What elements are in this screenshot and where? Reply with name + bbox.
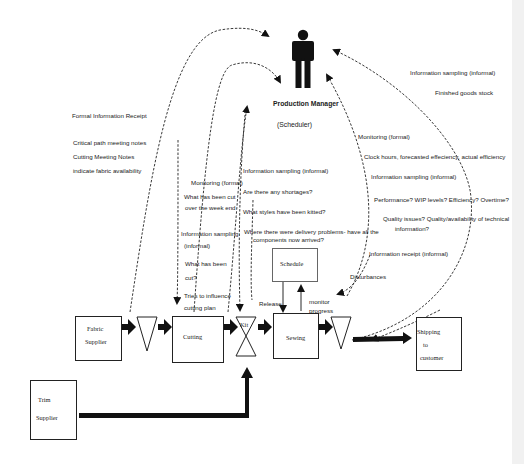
finished-goods-label: Finished goods stock <box>435 90 493 96</box>
manager-subtitle: (Scheduler) <box>277 122 312 129</box>
fabric-label-1: Fabric <box>87 326 103 332</box>
kit-sampling: Information sampling (informal) <box>243 168 328 174</box>
left-note-3: indicate fabric availability <box>73 168 141 174</box>
disturbances-label: Disturbances <box>350 274 386 280</box>
schedule-box: Schedule <box>272 248 318 282</box>
manager-title: Production Manager <box>273 101 339 108</box>
sewing-monitoring: Monitoring (formal) <box>358 134 410 140</box>
cutting-monitoring: Monitoring (formal) <box>191 180 243 186</box>
sewing-clock: Clock hours, forecasted effeciency, actu… <box>364 154 505 160</box>
cutting-sampling-2: (informal) <box>184 243 210 249</box>
sewing-sampling: Information sampling (informal) <box>371 174 456 180</box>
kit-label: Kit <box>240 322 248 328</box>
sewing-box: Sewing <box>273 313 319 359</box>
cutting-note-1: What has been cut <box>184 194 236 200</box>
cutting-influence-1: Tries to influence <box>184 293 231 299</box>
cutting-influence-2: cutting plan <box>184 305 216 311</box>
shipping-box: Shipping to customer <box>416 317 462 371</box>
release-label: Release <box>259 301 282 307</box>
trim-label-2: Supplier <box>36 415 58 421</box>
cutting-label: Cutting <box>183 334 202 340</box>
shipping-sampling: Information sampling (informal) <box>410 70 495 76</box>
fabric-label-2: Supplier <box>85 339 107 345</box>
left-note-2: Cutting Meeting Notes <box>73 154 134 160</box>
inventory-triangle-1 <box>137 317 157 351</box>
sewing-receipt: Information receipt (informal) <box>369 251 448 257</box>
shipping-label-3: customer <box>420 355 443 361</box>
fabric-supplier-box: Fabric Supplier <box>75 316 122 361</box>
kit-question-3a: Where there were delivery problems- have… <box>244 229 379 235</box>
sewing-label: Sewing <box>286 335 305 341</box>
cutting-box: Cutting <box>172 316 224 363</box>
person-icon <box>292 30 314 88</box>
sewing-quality-1: Quality issues? Quality/availability of … <box>383 216 509 222</box>
kit-question-1: Are there any shortages? <box>243 189 312 195</box>
cutting-note-4: cut? <box>185 275 197 281</box>
monitor-label-1: monitor <box>309 299 330 305</box>
cutting-note-2: over the week end <box>185 205 236 211</box>
trim-label-1: Trim <box>38 397 51 403</box>
kit-question-2: What styles have been kitted? <box>243 209 326 215</box>
formal-receipt-label: Formal Information Receipt <box>72 113 147 119</box>
trim-supplier-box: Trim Supplier <box>30 380 77 440</box>
shipping-label-2: to <box>423 342 428 348</box>
sewing-quality-2: information? <box>395 226 429 232</box>
left-note-1: Critical path meeting notes <box>73 140 146 146</box>
cutting-note-3: What has been <box>185 261 227 267</box>
schedule-label: Schedule <box>280 261 303 267</box>
sewing-performance: Performance? WIP levels? Efficiency? Ove… <box>374 197 509 203</box>
shipping-label-1: Shipping <box>417 329 440 335</box>
cutting-sampling-1: Information sampling <box>181 231 238 237</box>
kit-question-3b: components now arrived? <box>253 237 324 243</box>
